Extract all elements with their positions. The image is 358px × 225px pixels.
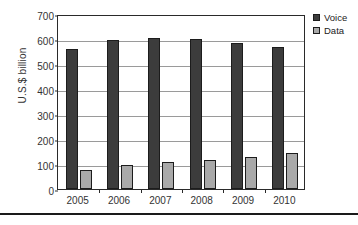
y-axis-title: U.S.$ billion <box>17 21 28 131</box>
bar-data-2008 <box>204 160 216 189</box>
legend-swatch-data-icon <box>313 27 320 34</box>
bar-data-2007 <box>162 162 174 189</box>
x-tick-label-2008: 2008 <box>191 195 213 206</box>
legend-item-voice: Voice <box>313 11 347 24</box>
y-tick-mark <box>55 41 58 42</box>
bar-voice-2008 <box>190 39 202 189</box>
bar-voice-2006 <box>107 40 119 189</box>
y-tick-mark <box>55 166 58 167</box>
y-tick-label: 400 <box>37 86 54 97</box>
y-tick-label: 600 <box>37 36 54 47</box>
x-tick-label-2009: 2009 <box>232 195 254 206</box>
x-tick-label-2007: 2007 <box>149 195 171 206</box>
y-tick-mark <box>55 116 58 117</box>
y-tick-label: 0 <box>48 186 54 197</box>
x-tick-mark <box>223 189 224 193</box>
bar-voice-2010 <box>272 47 284 189</box>
y-tick-mark <box>55 66 58 67</box>
bar-voice-2005 <box>66 49 78 189</box>
x-tick-mark <box>99 189 100 193</box>
x-tick-mark <box>141 189 142 193</box>
legend-item-data: Data <box>313 24 347 37</box>
bar-data-2005 <box>80 170 92 190</box>
y-tick-mark <box>55 141 58 142</box>
bar-data-2010 <box>286 153 298 189</box>
y-tick-label: 500 <box>37 61 54 72</box>
x-tick-mark <box>182 189 183 193</box>
bar-voice-2009 <box>231 43 243 190</box>
y-tick-mark <box>55 191 58 192</box>
bar-data-2006 <box>121 165 133 189</box>
y-tick-label: 200 <box>37 136 54 147</box>
y-tick-mark <box>55 91 58 92</box>
legend-label-voice: Voice <box>324 13 347 23</box>
y-tick-label: 700 <box>37 11 54 22</box>
x-tick-mark <box>265 189 266 193</box>
chart-legend: Voice Data <box>313 11 347 37</box>
x-tick-label-2005: 2005 <box>67 195 89 206</box>
bar-data-2009 <box>245 157 257 189</box>
bar-series-container <box>58 16 304 189</box>
legend-swatch-voice-icon <box>313 14 320 21</box>
footer-divider <box>0 213 358 215</box>
plot-area: 0100200300400500600700 <box>57 15 305 190</box>
bar-chart-figure: U.S.$ billion 0100200300400500600700 200… <box>0 0 358 225</box>
x-tick-label-2006: 2006 <box>108 195 130 206</box>
legend-label-data: Data <box>324 26 344 36</box>
y-tick-label: 300 <box>37 111 54 122</box>
y-tick-label: 100 <box>37 161 54 172</box>
bar-voice-2007 <box>148 38 160 189</box>
x-tick-label-2010: 2010 <box>273 195 295 206</box>
y-tick-mark <box>55 16 58 17</box>
